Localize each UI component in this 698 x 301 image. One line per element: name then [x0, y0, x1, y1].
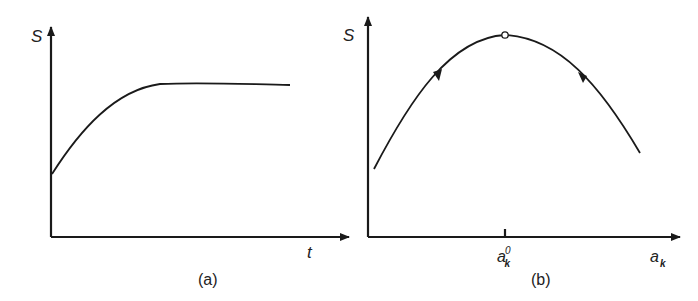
- panel-b-x-label: ak: [650, 248, 666, 269]
- panel-a-x-label: t: [307, 243, 313, 262]
- tick-label-sup: 0: [505, 245, 511, 256]
- panel-b-tick-label: a0k: [497, 245, 511, 269]
- x-label-base: a: [650, 248, 659, 265]
- panel-b-maximum-point: [502, 32, 508, 38]
- x-label-sub: k: [660, 258, 666, 269]
- panel-b-concave-curve: [374, 35, 640, 169]
- panel-a: S t (a): [31, 27, 349, 288]
- panel-b: S a0k ak (b): [343, 17, 680, 288]
- panel-b-caption: (b): [531, 271, 551, 288]
- panel-a-caption: (a): [198, 271, 218, 288]
- panel-a-y-label: S: [31, 27, 43, 46]
- tick-label-sub: k: [504, 258, 510, 269]
- diagram-canvas: S t (a) S a0k ak (b): [0, 0, 698, 301]
- panel-a-saturation-curve: [52, 83, 290, 174]
- panel-b-y-label: S: [343, 26, 355, 45]
